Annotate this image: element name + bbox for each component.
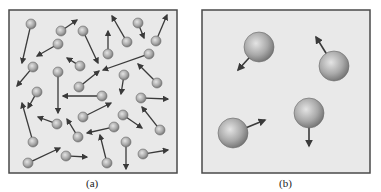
container-box [202, 10, 370, 173]
gas-particle [23, 158, 33, 168]
panel-b-label: (b) [279, 177, 292, 189]
gas-particle [155, 125, 165, 135]
gas-particle [136, 93, 146, 103]
gas-particle [109, 122, 119, 132]
gas-particle [218, 118, 248, 148]
gas-particle [103, 49, 113, 59]
gas-particle [144, 49, 154, 59]
gas-particle [61, 151, 71, 161]
velocity-arrow-icon [70, 156, 87, 157]
gas-particle [53, 39, 63, 49]
gas-particle [56, 26, 66, 36]
panel-b-large-particles [202, 10, 370, 173]
gas-particle [52, 119, 62, 129]
gas-particle [97, 91, 107, 101]
gas-particle [26, 19, 36, 29]
gas-particle [28, 62, 38, 72]
gas-particle [319, 51, 349, 81]
gas-particle [294, 98, 324, 128]
velocity-arrow-icon [145, 98, 168, 99]
gas-particle [32, 87, 42, 97]
gas-particle [133, 18, 143, 28]
panel-a-small-particles [9, 10, 177, 173]
gas-particle [152, 78, 162, 88]
gas-particle [75, 61, 85, 71]
gas-particle [102, 158, 112, 168]
gas-particle [119, 70, 129, 80]
gas-particle [138, 149, 148, 159]
gas-particle [118, 110, 128, 120]
gas-particle [244, 32, 274, 62]
gas-particle [121, 137, 131, 147]
gas-particle [74, 82, 84, 92]
gas-particle [73, 132, 83, 142]
gas-particle [53, 67, 63, 77]
gas-particle [122, 37, 132, 47]
diagram-canvas [0, 0, 381, 192]
gas-particle [78, 26, 88, 36]
panel-a-label: (a) [86, 177, 98, 189]
gas-particle [151, 36, 161, 46]
gas-particle [78, 112, 88, 122]
gas-particle [28, 137, 38, 147]
